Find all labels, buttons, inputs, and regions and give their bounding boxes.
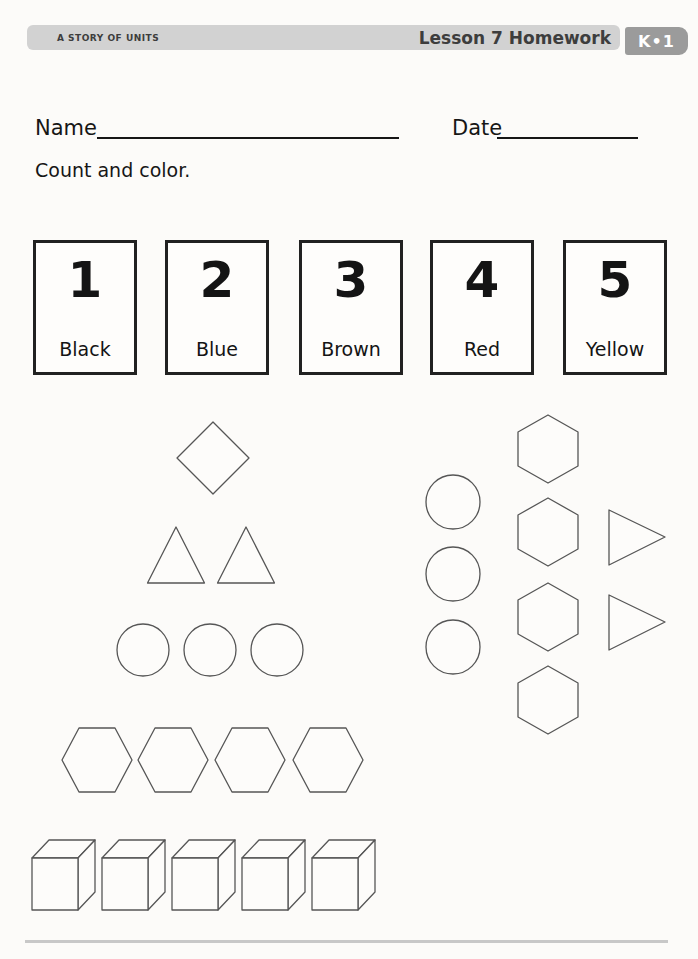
cubes-row-group xyxy=(32,840,375,910)
hexagon-flat-shape[interactable] xyxy=(293,728,363,792)
triangle-right-shape[interactable] xyxy=(609,510,665,565)
cube-face xyxy=(312,858,358,910)
cube-shape[interactable] xyxy=(242,840,305,910)
circle-shape[interactable] xyxy=(184,624,236,676)
circles-column-group xyxy=(426,475,480,674)
triangle-right-shape[interactable] xyxy=(609,595,665,650)
worksheet-page: A STORY OF UNITS Lesson 7 Homework K•1 N… xyxy=(0,0,698,959)
circle-shape[interactable] xyxy=(426,620,480,674)
cube-face xyxy=(172,858,218,910)
triangles-right-group xyxy=(609,510,665,650)
circle-shape[interactable] xyxy=(117,624,169,676)
diamond-shape[interactable] xyxy=(177,422,249,494)
hexagon-pointy-shape[interactable] xyxy=(518,415,578,483)
triangle-up-shape[interactable] xyxy=(218,527,275,583)
circle-shape[interactable] xyxy=(426,475,480,529)
diamonds-group xyxy=(177,422,249,494)
circle-shape[interactable] xyxy=(251,624,303,676)
footer-divider xyxy=(25,940,668,943)
hexagon-flat-shape[interactable] xyxy=(138,728,208,792)
circles-row-group xyxy=(117,624,303,676)
triangles-up-group xyxy=(148,527,275,583)
cube-shape[interactable] xyxy=(102,840,165,910)
cube-shape[interactable] xyxy=(32,840,95,910)
hexagon-pointy-shape[interactable] xyxy=(518,583,578,651)
hexagon-pointy-shape[interactable] xyxy=(518,498,578,566)
cube-shape[interactable] xyxy=(172,840,235,910)
cube-face xyxy=(32,858,78,910)
hexagons-column-group xyxy=(518,415,578,734)
triangle-up-shape[interactable] xyxy=(148,527,205,583)
hexagon-pointy-shape[interactable] xyxy=(518,666,578,734)
hexagon-flat-shape[interactable] xyxy=(62,728,132,792)
shapes-canvas xyxy=(0,0,698,959)
hexagons-row-group xyxy=(62,728,363,792)
cube-face xyxy=(102,858,148,910)
cube-face xyxy=(242,858,288,910)
cube-shape[interactable] xyxy=(312,840,375,910)
hexagon-flat-shape[interactable] xyxy=(215,728,285,792)
circle-shape[interactable] xyxy=(426,547,480,601)
